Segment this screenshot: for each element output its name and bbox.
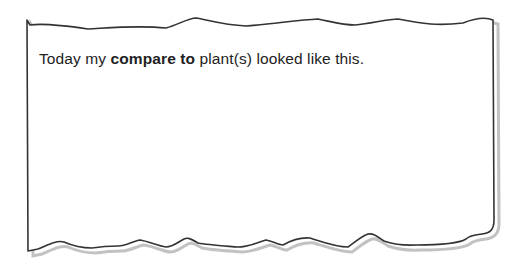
prompt-emphasis: compare to bbox=[111, 50, 196, 67]
prompt-text-before: Today my bbox=[39, 50, 111, 67]
prompt-text-after: plant(s) looked like this. bbox=[195, 50, 364, 67]
drawing-area[interactable] bbox=[32, 78, 487, 228]
card-prompt: Today my compare to plant(s) looked like… bbox=[39, 50, 364, 68]
